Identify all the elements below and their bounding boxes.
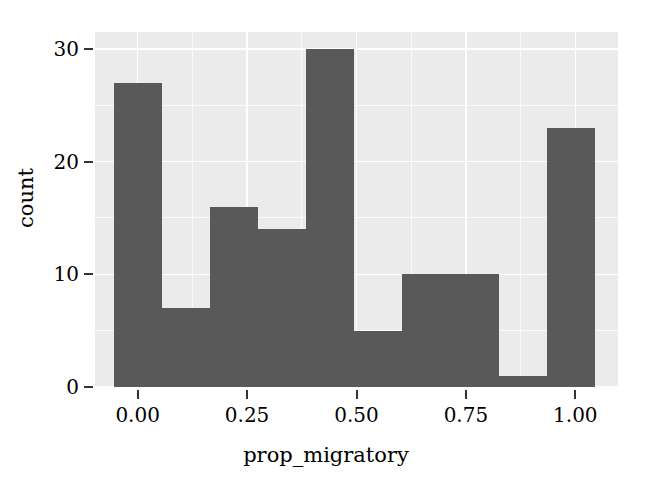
x-axis-tick-label: 0.25 <box>197 405 297 425</box>
gridline-horizontal-major <box>95 48 618 50</box>
histogram-figure: 01020300.000.250.500.751.00 count prop_m… <box>0 0 652 486</box>
y-axis-tick-mark <box>84 161 93 163</box>
x-axis-tick-label: 0.00 <box>88 405 188 425</box>
histogram-bar <box>499 376 547 387</box>
histogram-bar <box>547 128 595 387</box>
x-axis-tick-mark <box>356 390 358 399</box>
histogram-bar <box>402 274 450 387</box>
gridline-horizontal-major <box>95 274 618 276</box>
x-axis-tick-label: 1.00 <box>525 405 625 425</box>
gridline-vertical-minor <box>520 32 521 387</box>
x-axis-tick-mark <box>465 390 467 399</box>
histogram-bar <box>162 308 210 387</box>
histogram-bar <box>258 229 306 387</box>
x-axis-tick-mark <box>137 390 139 399</box>
histogram-bar <box>354 331 402 387</box>
gridline-horizontal-major <box>95 161 618 163</box>
x-axis-label: prop_migratory <box>0 443 652 467</box>
histogram-bar <box>451 274 499 387</box>
plot-panel <box>95 32 618 387</box>
histogram-bar <box>210 207 258 387</box>
y-axis-tick-label: 30 <box>54 39 79 59</box>
histogram-bar <box>306 49 354 387</box>
x-axis-tick-mark <box>246 390 248 399</box>
x-axis-tick-mark <box>574 390 576 399</box>
y-axis-tick-label: 20 <box>54 152 79 172</box>
y-axis-tick-mark <box>84 48 93 50</box>
gridline-horizontal-minor <box>95 105 618 106</box>
y-axis-tick-mark <box>84 386 93 388</box>
y-axis-tick-label: 10 <box>54 264 79 284</box>
x-axis-tick-label: 0.75 <box>416 405 516 425</box>
gridline-horizontal-minor <box>95 217 618 218</box>
y-axis-tick-mark <box>84 273 93 275</box>
y-axis-tick-label: 0 <box>66 377 79 397</box>
histogram-bar <box>114 83 162 387</box>
y-axis-label: count <box>14 138 38 258</box>
x-axis-tick-label: 0.50 <box>307 405 407 425</box>
